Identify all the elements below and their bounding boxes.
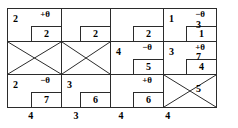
cell-cost: 2 (13, 14, 18, 24)
cell-r2c1[interactable] (8, 42, 62, 75)
cross-out-icon (62, 42, 110, 74)
cell-theta-label: +θ (133, 76, 161, 85)
supply-value-row3: 5 (196, 73, 220, 105)
supply-value-row1: 3 (196, 8, 220, 40)
cell-theta-label: +θ (31, 10, 59, 19)
cell-r1c1[interactable]: 2 +θ 2 (8, 9, 62, 42)
demand-value-col2: 3 (55, 108, 98, 124)
cell-r3c1[interactable]: 2 −θ 7 (8, 75, 62, 108)
supply-column: 3 7 5 (196, 8, 220, 105)
demand-value-col4: 4 (144, 108, 191, 124)
cell-allocation: 5 (133, 59, 163, 74)
table-row: 4 −θ 5 3 +θ 4 (8, 42, 217, 75)
cell-allocation: 6 (133, 92, 163, 107)
cell-r2c3[interactable]: 4 −θ 5 (111, 42, 164, 75)
cell-cost: 4 (116, 47, 121, 57)
cell-cost: 2 (13, 80, 18, 90)
cell-r1c3[interactable]: 2 (111, 9, 164, 42)
cell-allocation: 2 (133, 26, 163, 41)
table-row: 2 −θ 7 3 6 +θ 6 (8, 75, 217, 108)
cell-allocation: 2 (31, 26, 61, 41)
cell-cost: 3 (67, 80, 72, 90)
cell-r3c2[interactable]: 3 6 (62, 75, 111, 108)
table-row: 2 +θ 2 2 2 1 −θ 1 (8, 9, 217, 42)
supply-value-row2: 7 (196, 40, 220, 72)
demand-row: 4 3 4 4 (7, 108, 191, 124)
transportation-tableau: 2 +θ 2 2 2 1 −θ 1 (7, 8, 191, 105)
demand-value-col3: 4 (98, 108, 145, 124)
cell-r1c2[interactable]: 2 (62, 9, 111, 42)
cell-r2c2[interactable] (62, 42, 111, 75)
cross-out-icon (8, 42, 61, 74)
cell-cost: 3 (169, 47, 174, 57)
cell-theta-label: −θ (133, 43, 161, 52)
cell-cost: 1 (169, 14, 174, 24)
cell-theta-label: −θ (31, 76, 59, 85)
demand-value-col1: 4 (7, 108, 55, 124)
tableau-grid: 2 +θ 2 2 2 1 −θ 1 (7, 8, 217, 108)
cell-allocation: 6 (80, 92, 110, 107)
cell-allocation: 7 (31, 92, 61, 107)
cell-allocation: 2 (80, 26, 110, 41)
cell-r3c3[interactable]: +θ 6 (111, 75, 164, 108)
